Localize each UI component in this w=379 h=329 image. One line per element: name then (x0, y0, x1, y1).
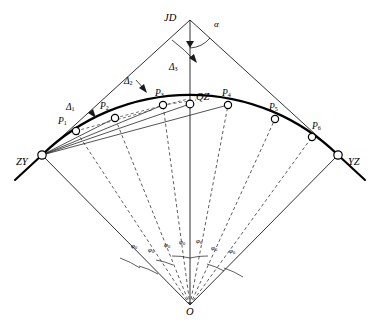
label-p1: P1 (58, 117, 67, 127)
label-delta3: Δ3 (169, 63, 178, 73)
phi-arc-1 (120, 258, 140, 268)
label-phi-2: φ0 (148, 247, 154, 254)
label-p5: P5 (269, 103, 278, 113)
chord-zy-qz (42, 104, 190, 155)
label-phi-7: φ0 (229, 248, 235, 255)
delta1-arrowhead (88, 109, 96, 118)
label-alpha: α (214, 20, 219, 29)
radius-o-yz (190, 155, 338, 305)
node-p5 (271, 115, 278, 122)
label-p6: P6 (312, 122, 321, 132)
delta2-arrowhead (139, 84, 147, 93)
node-qz (186, 100, 194, 108)
central-angle-arcs (120, 256, 243, 277)
radius-o-p6 (190, 137, 312, 305)
label-phi-3: φ0 (164, 242, 170, 249)
label-delta2: Δ2 (124, 77, 133, 87)
label-phi-5: φ0 (196, 238, 202, 245)
point-radii (76, 105, 312, 305)
label-o: O (186, 307, 194, 318)
label-zy: ZY (16, 157, 28, 168)
label-yz: YZ (348, 157, 360, 168)
radius-o-p2 (115, 118, 190, 305)
radius-o-p4 (190, 105, 228, 305)
node-p4 (224, 101, 231, 108)
node-p2 (111, 114, 118, 121)
label-jd: JD (164, 13, 176, 24)
label-p3: P3 (155, 89, 164, 99)
label-phi-6: φ0 (211, 245, 217, 252)
radius-o-p5 (190, 119, 275, 305)
label-delta1: Δ1 (66, 103, 75, 113)
alpha-arc (190, 38, 210, 48)
label-phi-4: φ0 (179, 239, 185, 246)
diagram-svg (0, 0, 379, 329)
radius-o-zy (42, 155, 190, 305)
node-p6 (308, 133, 315, 140)
label-p2: P2 (100, 102, 109, 112)
phi-arc-3 (156, 260, 173, 265)
node-p3 (159, 101, 166, 108)
node-zy (38, 151, 46, 159)
radius-o-p1 (76, 131, 190, 305)
alpha-arrowhead (186, 41, 194, 48)
label-phi-1: φ0 (131, 243, 137, 250)
node-p1 (72, 127, 79, 134)
phi-arc-7 (224, 268, 243, 277)
label-qz: QZ (196, 92, 209, 103)
radius-o-p3 (163, 105, 190, 305)
label-p4: P4 (222, 89, 231, 99)
diagram-canvas: JD ZY YZ QZ O α P1 P2 P3 P4 P5 P6 Δ1 Δ2 … (0, 0, 379, 329)
node-yz (334, 151, 342, 159)
phi-arc-4 (172, 256, 190, 258)
